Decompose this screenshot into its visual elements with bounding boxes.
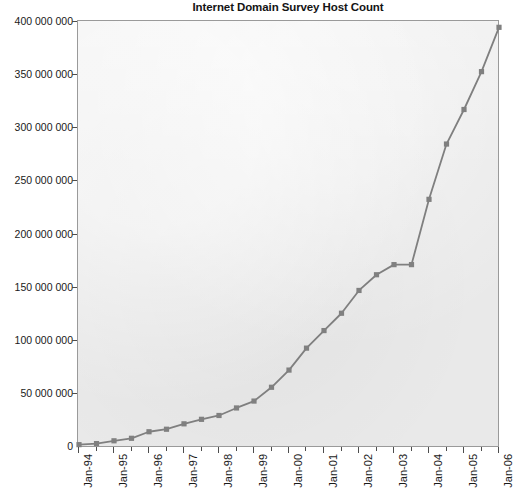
data-point-marker <box>94 441 99 446</box>
x-axis-tick-label-text: Jan-96 <box>152 454 164 488</box>
data-point-marker <box>409 262 414 267</box>
x-axis-tick-label: Jan-94 <box>82 454 94 488</box>
data-point-marker <box>321 328 326 333</box>
x-axis-tick-mark-major <box>393 447 394 453</box>
x-axis-tick-label: Jan-97 <box>187 454 199 488</box>
x-axis-tick-mark-minor <box>271 447 272 451</box>
x-axis-tick-mark-minor <box>446 447 447 451</box>
x-axis-tick-mark-minor <box>411 447 412 451</box>
x-axis-label-group: Jan-94Jan-95Jan-96Jan-97Jan-98Jan-99Jan-… <box>77 454 499 501</box>
host-count-line <box>79 27 499 444</box>
y-axis-tick-label: 100 000 000 <box>1 334 73 346</box>
x-axis-tick-label-text: Jan-94 <box>82 454 94 488</box>
x-axis-tick-label: Jan-00 <box>292 454 304 488</box>
x-axis-tick-mark-major <box>288 447 289 453</box>
y-axis-tick-label: 250 000 000 <box>1 174 73 186</box>
data-point-marker <box>164 427 169 432</box>
y-axis-tick-label: 0 <box>1 440 73 452</box>
x-axis-tick-label: Jan-99 <box>257 454 269 488</box>
x-axis-tick-mark-major <box>78 447 79 453</box>
data-point-marker <box>251 398 256 403</box>
x-axis-tick-label: Jan-02 <box>362 454 374 488</box>
data-point-marker <box>199 417 204 422</box>
y-axis-tick-label: 300 000 000 <box>1 121 73 133</box>
x-axis-tick-group <box>77 447 499 454</box>
host-count-markers <box>76 25 501 448</box>
y-axis-tick-label: 150 000 000 <box>1 281 73 293</box>
x-axis-tick-mark-minor <box>96 447 97 451</box>
x-axis-tick-mark-major <box>148 447 149 453</box>
x-axis-tick-mark-minor <box>201 447 202 451</box>
x-axis-tick-label: Jan-98 <box>222 454 234 488</box>
y-axis-label-group: 400 000 000350 000 000300 000 000250 000… <box>0 20 73 447</box>
x-axis-tick-label-text: Jan-95 <box>117 454 129 488</box>
x-axis-tick-mark-minor <box>481 447 482 451</box>
data-point-marker <box>444 141 449 146</box>
x-axis-tick-mark-major <box>113 447 114 453</box>
data-point-marker <box>181 421 186 426</box>
x-axis-tick-mark-major <box>323 447 324 453</box>
chart-title: Internet Domain Survey Host Count <box>77 1 499 13</box>
x-axis-tick-mark-major <box>253 447 254 453</box>
x-axis-tick-label-text: Jan-98 <box>222 454 234 488</box>
x-axis-tick-mark-minor <box>305 447 306 451</box>
data-point-marker <box>146 429 151 434</box>
data-point-marker <box>129 436 134 441</box>
y-axis-tick-label: 200 000 000 <box>1 228 73 240</box>
x-axis-tick-mark-minor <box>236 447 237 451</box>
y-axis-tick-label: 400 000 000 <box>1 15 73 27</box>
data-point-marker <box>216 413 221 418</box>
data-point-marker <box>234 405 239 410</box>
y-axis-tick-label: 350 000 000 <box>1 68 73 80</box>
data-point-marker <box>374 272 379 277</box>
x-axis-tick-label: Jan-95 <box>117 454 129 488</box>
x-axis-tick-label-text: Jan-01 <box>327 454 339 488</box>
x-axis-tick-label-text: Jan-03 <box>397 454 409 488</box>
x-axis-tick-mark-major <box>183 447 184 453</box>
x-axis-tick-label: Jan-06 <box>502 454 514 488</box>
data-point-marker <box>269 385 274 390</box>
x-axis-tick-label-text: Jan-97 <box>187 454 199 488</box>
x-axis-tick-mark-major <box>218 447 219 453</box>
y-axis-tick-label: 50 000 000 <box>1 387 73 399</box>
x-axis-tick-label-text: Jan-04 <box>432 454 444 488</box>
x-axis-tick-label: Jan-05 <box>467 454 479 488</box>
x-axis-tick-mark-major <box>498 447 499 453</box>
x-axis-tick-label-text: Jan-02 <box>362 454 374 488</box>
x-axis-tick-mark-minor <box>166 447 167 451</box>
x-axis-tick-mark-major <box>428 447 429 453</box>
data-point-marker <box>356 288 361 293</box>
x-axis-tick-mark-minor <box>376 447 377 451</box>
x-axis-tick-mark-major <box>463 447 464 453</box>
plot-area <box>77 20 499 447</box>
data-point-marker <box>304 346 309 351</box>
data-series-svg <box>78 21 500 448</box>
data-point-marker <box>391 262 396 267</box>
x-axis-tick-mark-minor <box>341 447 342 451</box>
data-point-marker <box>479 69 484 74</box>
data-point-marker <box>339 311 344 316</box>
x-axis-tick-label-text: Jan-05 <box>467 454 479 488</box>
data-point-marker <box>496 25 501 30</box>
x-axis-tick-label-text: Jan-06 <box>502 454 514 488</box>
x-axis-tick-label: Jan-03 <box>397 454 409 488</box>
x-axis-tick-label-text: Jan-00 <box>292 454 304 488</box>
data-point-marker <box>286 367 291 372</box>
x-axis-tick-mark-major <box>358 447 359 453</box>
data-point-marker <box>111 438 116 443</box>
data-point-marker <box>461 107 466 112</box>
x-axis-tick-label: Jan-01 <box>327 454 339 488</box>
data-point-marker <box>426 197 431 202</box>
x-axis-tick-label: Jan-96 <box>152 454 164 488</box>
x-axis-tick-mark-minor <box>131 447 132 451</box>
x-axis-tick-label: Jan-04 <box>432 454 444 488</box>
x-axis-tick-label-text: Jan-99 <box>257 454 269 488</box>
